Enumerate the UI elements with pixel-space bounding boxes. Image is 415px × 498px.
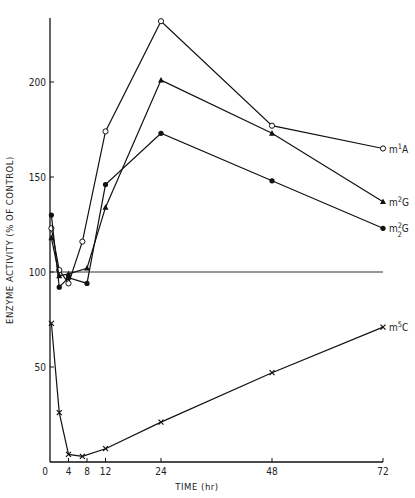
open-circle-marker bbox=[80, 239, 85, 244]
y-tick-label: 150 bbox=[29, 172, 46, 183]
x-tick-label: 72 bbox=[377, 466, 388, 477]
x-cross-marker bbox=[159, 420, 164, 425]
filled-circle-marker bbox=[49, 212, 54, 217]
open-circle-marker bbox=[66, 281, 71, 286]
series-m5c bbox=[49, 321, 386, 459]
x-tick-label: 24 bbox=[155, 466, 167, 477]
series-label-m1a: m1A bbox=[389, 142, 409, 155]
x-tick-label: 8 bbox=[84, 466, 90, 477]
open-circle-marker bbox=[380, 146, 385, 151]
open-circle-marker bbox=[269, 123, 274, 128]
series-label-m5c: m5C bbox=[389, 320, 408, 333]
axes: 5010015020004812244872 bbox=[29, 18, 389, 477]
series-labels: m1Am2Gm22Gm5C bbox=[389, 142, 409, 334]
enzyme-activity-chart: 5010015020004812244872 m1Am2Gm22Gm5C TIM… bbox=[0, 0, 415, 498]
filled-circle-marker bbox=[158, 131, 163, 136]
filled-triangle-marker bbox=[380, 199, 386, 205]
filled-circle-marker bbox=[66, 275, 71, 280]
open-circle-marker bbox=[158, 19, 163, 24]
x-tick-label: 4 bbox=[66, 466, 72, 477]
x-tick-label: 48 bbox=[266, 466, 278, 477]
y-axis-title: ENZYME ACTIVITY (% OF CONTROL) bbox=[4, 156, 15, 324]
x-cross-marker bbox=[270, 370, 275, 375]
series-m2g bbox=[48, 77, 386, 278]
x-tick-label: 12 bbox=[100, 466, 111, 477]
filled-circle-marker bbox=[103, 182, 108, 187]
series-label-m2-2g: m22G bbox=[389, 221, 409, 239]
filled-triangle-marker bbox=[158, 77, 164, 83]
series-line bbox=[51, 80, 383, 276]
filled-circle-marker bbox=[57, 285, 62, 290]
series-m1a bbox=[49, 19, 386, 286]
series-line bbox=[51, 21, 383, 283]
y-tick-label: 50 bbox=[35, 362, 47, 373]
series-line bbox=[51, 133, 383, 287]
x-cross-marker bbox=[381, 325, 386, 330]
series-m2-2g bbox=[49, 131, 386, 290]
y-tick-label: 100 bbox=[29, 267, 46, 278]
filled-circle-marker bbox=[380, 226, 385, 231]
series-layer bbox=[48, 19, 386, 459]
y-tick-label: 200 bbox=[29, 77, 46, 88]
chart-canvas: 5010015020004812244872 m1Am2Gm22Gm5C TIM… bbox=[0, 0, 415, 498]
filled-circle-marker bbox=[84, 281, 89, 286]
series-line bbox=[51, 323, 383, 456]
open-circle-marker bbox=[103, 129, 108, 134]
x-tick-label: 0 bbox=[42, 466, 48, 477]
filled-circle-marker bbox=[269, 178, 274, 183]
series-label-m2g: m2G bbox=[389, 195, 409, 208]
x-axis-title: TIME (hr) bbox=[174, 481, 218, 492]
filled-triangle-marker bbox=[103, 204, 109, 210]
